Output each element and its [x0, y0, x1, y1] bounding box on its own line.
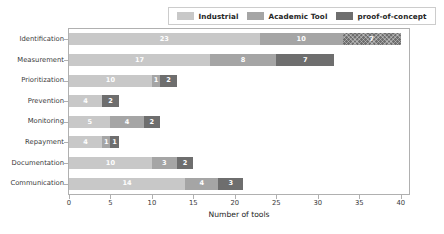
- bar-segment[interactable]: 4: [185, 178, 218, 190]
- bar-value-label: 4: [83, 139, 88, 146]
- bar-value-label: 23: [160, 36, 169, 43]
- x-axis-title: Number of tools: [68, 211, 410, 219]
- y-axis-tick-label: Measurement: [0, 57, 64, 64]
- chart-legend: IndustrialAcademic Toolproof-of-concept: [168, 7, 436, 25]
- bar-value-label: 2: [150, 119, 155, 126]
- x-axis-tick-label: 15: [189, 200, 198, 207]
- bar-row[interactable]: 542: [69, 116, 160, 128]
- bar-segment[interactable]: 4: [69, 95, 102, 107]
- bar-segment[interactable]: 1: [152, 75, 160, 87]
- bar-value-label: 1: [104, 139, 109, 146]
- bar-value-label: 2: [166, 77, 171, 84]
- legend-swatch-icon: [247, 12, 264, 20]
- y-axis-tick-label: Monitoring: [0, 118, 64, 125]
- y-axis-tick-label: Identification: [0, 36, 64, 43]
- bar-value-label: 3: [162, 160, 167, 167]
- bar-value-label: 4: [83, 98, 88, 105]
- bar-segment[interactable]: 10: [69, 75, 152, 87]
- bar-value-label: 1: [112, 139, 117, 146]
- bar-value-label: 14: [122, 180, 131, 187]
- bar-value-label: 3: [228, 180, 233, 187]
- y-axis-tick-label: Prioritization: [0, 77, 64, 84]
- legend-entry[interactable]: proof-of-concept: [336, 12, 426, 21]
- y-axis-tick-mark: [64, 60, 68, 61]
- bar-row[interactable]: 1032: [69, 157, 193, 169]
- bar-row[interactable]: 1012: [69, 75, 177, 87]
- bar-segment[interactable]: 3: [152, 157, 177, 169]
- bar-value-label: 2: [108, 98, 113, 105]
- x-axis-tick-label: 20: [231, 200, 240, 207]
- bar-segment[interactable]: 4: [69, 136, 102, 148]
- bar-value-label: 1: [154, 77, 159, 84]
- y-axis-tick-mark: [64, 122, 68, 123]
- bar-segment[interactable]: 2: [160, 75, 177, 87]
- bar-value-label: 17: [135, 57, 144, 64]
- legend-entry[interactable]: Academic Tool: [247, 12, 327, 21]
- legend-label: Industrial: [198, 12, 238, 21]
- y-axis-tick-label: Documentation: [0, 160, 64, 167]
- legend-label: Academic Tool: [268, 12, 327, 21]
- bar-row[interactable]: 23107: [69, 33, 401, 45]
- legend-swatch-icon: [336, 12, 353, 20]
- legend-entry[interactable]: Industrial: [177, 12, 238, 21]
- bar-segment[interactable]: 2: [177, 157, 194, 169]
- bar-value-label: 10: [106, 160, 115, 167]
- bars-layer: 23107178710124254241110321443: [69, 29, 409, 194]
- bar-segment[interactable]: 7: [343, 33, 401, 45]
- bar-value-label: 2: [183, 160, 188, 167]
- bar-segment[interactable]: 2: [144, 116, 161, 128]
- chart-figure: IndustrialAcademic Toolproof-of-concept …: [0, 0, 444, 234]
- bar-segment[interactable]: 2: [102, 95, 119, 107]
- y-axis-tick-mark: [64, 184, 68, 185]
- x-axis-tick-label: 0: [67, 200, 71, 207]
- bar-segment[interactable]: 4: [110, 116, 143, 128]
- x-axis-tick-label: 10: [148, 200, 157, 207]
- bar-segment[interactable]: 10: [69, 157, 152, 169]
- y-axis: IdentificationMeasurementPrioritizationP…: [0, 29, 64, 194]
- bar-value-label: 4: [199, 180, 204, 187]
- bar-row[interactable]: 42: [69, 95, 119, 107]
- bar-segment[interactable]: 14: [69, 178, 185, 190]
- y-axis-tick-mark: [64, 163, 68, 164]
- y-axis-tick-label: Repayment: [0, 139, 64, 146]
- bar-segment[interactable]: 10: [260, 33, 343, 45]
- bar-segment[interactable]: 17: [69, 54, 210, 66]
- x-axis-tick-label: 30: [313, 200, 322, 207]
- bar-value-label: 5: [87, 119, 92, 126]
- x-axis-tick-label: 35: [355, 200, 364, 207]
- x-axis-tick-label: 40: [396, 200, 405, 207]
- bar-segment[interactable]: 23: [69, 33, 260, 45]
- x-axis-tick-label: 5: [108, 200, 112, 207]
- bar-segment[interactable]: 8: [210, 54, 276, 66]
- x-axis-tick-label: 25: [272, 200, 281, 207]
- y-axis-tick-mark: [64, 101, 68, 102]
- bar-row[interactable]: 1787: [69, 54, 334, 66]
- legend-swatch-icon: [177, 12, 194, 20]
- y-axis-tick-mark: [64, 39, 68, 40]
- bar-segment[interactable]: 1: [102, 136, 110, 148]
- bar-segment[interactable]: 7: [276, 54, 334, 66]
- bar-value-label: 8: [241, 57, 246, 64]
- bar-value-label: 7: [369, 36, 374, 43]
- bar-segment[interactable]: 5: [69, 116, 110, 128]
- y-axis-tick-label: Communication: [0, 180, 64, 187]
- bar-row[interactable]: 411: [69, 136, 119, 148]
- y-axis-tick-label: Prevention: [0, 98, 64, 105]
- bar-value-label: 10: [297, 36, 306, 43]
- bar-segment[interactable]: 1: [110, 136, 118, 148]
- bar-value-label: 7: [303, 57, 308, 64]
- y-axis-tick-mark: [64, 142, 68, 143]
- bar-segment[interactable]: 3: [218, 178, 243, 190]
- y-axis-tick-mark: [64, 81, 68, 82]
- legend-label: proof-of-concept: [357, 12, 426, 21]
- bar-value-label: 10: [106, 77, 115, 84]
- bar-row[interactable]: 1443: [69, 178, 243, 190]
- bar-value-label: 4: [125, 119, 130, 126]
